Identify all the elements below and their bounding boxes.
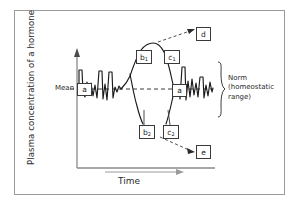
norm-label-line1: Norm (228, 74, 247, 82)
callout-label-e: e (201, 148, 206, 157)
callout-box-d: d (196, 27, 211, 41)
callout-label-a1: a (82, 85, 87, 94)
callout-sub-b2: 2 (148, 131, 151, 137)
callout-box-c1: c1 (164, 50, 180, 64)
figure-container: Plasma concentration of a hormone Time M… (0, 0, 299, 210)
callout-box-b1: b1 (136, 50, 152, 64)
norm-range-label: Norm (homeostatic range) (228, 74, 284, 102)
callout-label-a2: a (177, 86, 182, 95)
callout-sub-c2: 2 (171, 131, 174, 137)
diagram-canvas (0, 0, 299, 210)
x-axis-arrow-icon (105, 169, 184, 175)
norm-label-line3: range) (228, 93, 251, 101)
norm-label-line2: (homeostatic (228, 83, 274, 91)
callout-box-c2: c2 (163, 125, 179, 139)
mean-label: Mean (55, 84, 74, 92)
callout-box-a1: a (77, 83, 92, 96)
callout-box-a2: a (172, 84, 187, 97)
y-axis (74, 48, 80, 168)
callout-box-b2: b2 (139, 125, 155, 139)
callout-sub-c1: 1 (172, 56, 175, 62)
y-axis-label: Plasma concentration of a hormone (27, 35, 37, 165)
callout-sub-b1: 1 (145, 56, 148, 62)
callout-box-e: e (196, 145, 211, 159)
callout-label-d: d (201, 30, 206, 39)
norm-range-brace (218, 62, 225, 117)
arrow-to-d (158, 29, 195, 42)
x-axis-label: Time (118, 176, 140, 186)
arrow-to-e (160, 137, 195, 154)
